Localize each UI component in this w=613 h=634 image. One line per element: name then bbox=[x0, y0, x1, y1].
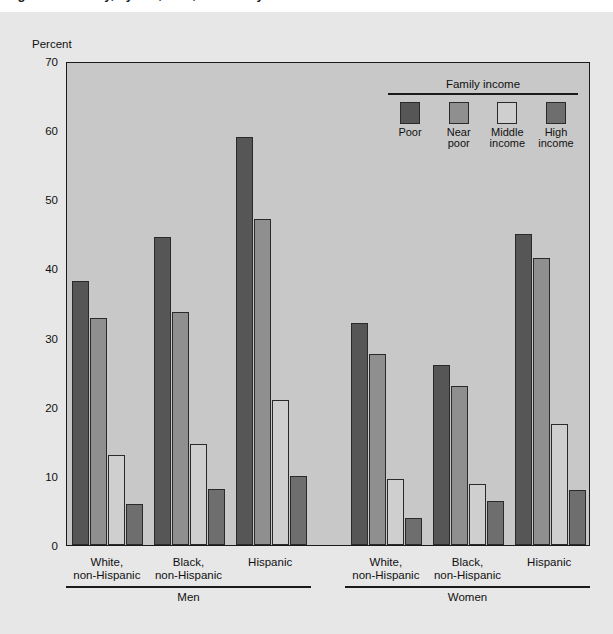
legend-title: Family income bbox=[388, 78, 578, 92]
legend-label-line2: poor bbox=[437, 138, 481, 150]
bar-men-hispanic-poor bbox=[236, 137, 253, 545]
bar-men-hispanic-middle-income bbox=[272, 400, 289, 545]
legend-swatch-high bbox=[546, 102, 566, 124]
figure-panel: Percent 010203040506070 Family income Po… bbox=[0, 12, 613, 634]
bar-women-black-non-hispanic-poor bbox=[433, 365, 450, 545]
sex-group-label-women: Women bbox=[345, 591, 590, 603]
bar-men-black-non-hispanic-near-poor bbox=[172, 312, 189, 545]
y-tick-label-40: 40 bbox=[45, 263, 58, 275]
bar-women-white-non-hispanic-middle-income bbox=[387, 479, 404, 545]
y-tick-label-70: 70 bbox=[45, 56, 58, 68]
y-tick-label-60: 60 bbox=[45, 125, 58, 137]
y-tick-label-0: 0 bbox=[52, 540, 58, 552]
y-axis-label: Percent bbox=[32, 38, 72, 50]
legend-label-line2: income bbox=[534, 138, 578, 150]
bar-women-black-non-hispanic-high-income bbox=[487, 501, 504, 545]
bar-men-white-non-hispanic-poor bbox=[72, 281, 89, 545]
sex-group-label-men: Men bbox=[66, 591, 311, 603]
bar-men-hispanic-high-income bbox=[290, 476, 307, 545]
bar-women-hispanic-near-poor bbox=[533, 258, 550, 545]
y-tick-label-20: 20 bbox=[45, 402, 58, 414]
category-label-line1: Black, bbox=[427, 556, 509, 569]
category-label-4: Black,non-Hispanic bbox=[427, 556, 509, 581]
category-label-1: Black,non-Hispanic bbox=[148, 556, 230, 581]
legend-rule bbox=[388, 93, 578, 95]
category-label-line1: Hispanic bbox=[508, 556, 590, 569]
category-label-0: White,non-Hispanic bbox=[66, 556, 148, 581]
category-label-line2: non-Hispanic bbox=[427, 569, 509, 582]
y-tick-label-10: 10 bbox=[45, 471, 58, 483]
category-axis-labels: White,non-HispanicBlack,non-HispanicHisp… bbox=[0, 552, 613, 612]
sex-group-rule-women bbox=[345, 586, 590, 588]
y-tick-label-50: 50 bbox=[45, 194, 58, 206]
category-label-line1: Hispanic bbox=[229, 556, 311, 569]
category-label-line1: White, bbox=[345, 556, 427, 569]
figure-title-text: Figure 2. Obesity, by sex, race, and fam… bbox=[6, 0, 313, 2]
bar-men-black-non-hispanic-poor bbox=[154, 237, 171, 545]
bar-men-white-non-hispanic-middle-income bbox=[108, 455, 125, 545]
legend: Family income PoorNearpoorMiddleincomeHi… bbox=[388, 78, 578, 150]
category-label-line2: non-Hispanic bbox=[148, 569, 230, 582]
bar-men-white-non-hispanic-near-poor bbox=[90, 318, 107, 545]
bar-women-white-non-hispanic-poor bbox=[351, 323, 368, 545]
bar-women-white-non-hispanic-near-poor bbox=[369, 354, 386, 545]
bar-women-hispanic-middle-income bbox=[551, 424, 568, 545]
category-label-line1: Black, bbox=[148, 556, 230, 569]
category-label-line2: non-Hispanic bbox=[345, 569, 427, 582]
y-axis-ticks: 010203040506070 bbox=[0, 62, 64, 546]
y-tick-label-30: 30 bbox=[45, 333, 58, 345]
category-label-3: White,non-Hispanic bbox=[345, 556, 427, 581]
sex-group-rule-men bbox=[66, 586, 311, 588]
bar-women-hispanic-poor bbox=[515, 234, 532, 545]
bar-women-black-non-hispanic-middle-income bbox=[469, 484, 486, 545]
legend-item-middle: Middleincome bbox=[485, 102, 529, 150]
legend-item-near: Nearpoor bbox=[437, 102, 481, 150]
bar-men-black-non-hispanic-middle-income bbox=[190, 444, 207, 545]
legend-item-poor: Poor bbox=[388, 102, 432, 150]
category-label-5: Hispanic bbox=[508, 556, 590, 569]
category-label-2: Hispanic bbox=[229, 556, 311, 569]
legend-label-line1: Poor bbox=[388, 127, 432, 139]
bar-women-black-non-hispanic-near-poor bbox=[451, 386, 468, 545]
legend-swatch-poor bbox=[400, 102, 420, 124]
legend-swatch-middle bbox=[497, 102, 517, 124]
legend-swatch-near bbox=[449, 102, 469, 124]
bar-men-black-non-hispanic-high-income bbox=[208, 489, 225, 545]
category-label-line2: non-Hispanic bbox=[66, 569, 148, 582]
clipped-figure-title: Figure 2. Obesity, by sex, race, and fam… bbox=[0, 0, 613, 12]
legend-items: PoorNearpoorMiddleincomeHighincome bbox=[388, 102, 578, 150]
bar-women-white-non-hispanic-high-income bbox=[405, 518, 422, 545]
bar-men-hispanic-near-poor bbox=[254, 219, 271, 545]
bar-women-hispanic-high-income bbox=[569, 490, 586, 545]
category-label-line1: White, bbox=[66, 556, 148, 569]
legend-label-line2: income bbox=[485, 138, 529, 150]
bar-men-white-non-hispanic-high-income bbox=[126, 504, 143, 545]
legend-item-high: Highincome bbox=[534, 102, 578, 150]
